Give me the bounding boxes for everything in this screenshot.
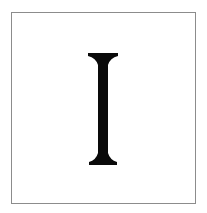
letter-card: I	[11, 12, 196, 204]
letter-i-glyph: I	[12, 13, 195, 203]
